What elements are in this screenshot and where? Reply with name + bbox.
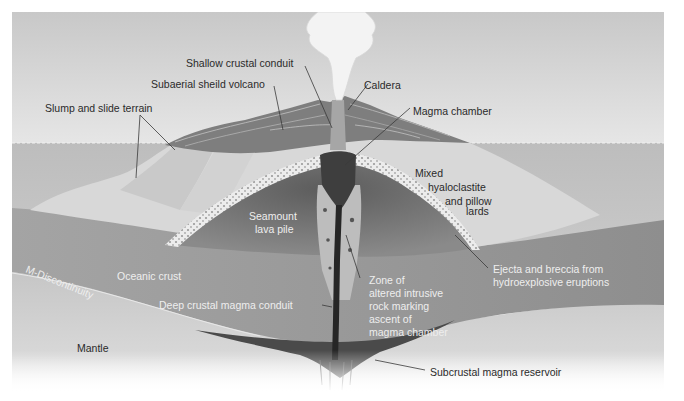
label-subcrustal-magma-reservoir: Subcrustal magma reservoir	[430, 366, 562, 378]
shallow-crustal-conduit	[330, 100, 346, 150]
label-slump-and-slide-terrain: Slump and slide terrain	[45, 102, 153, 114]
volcano-cross-section-diagram: Shallow crustal conduit Subaerial sheild…	[0, 0, 684, 401]
label-subaerial-shield-volcano: Subaerial sheild volcano	[151, 78, 265, 90]
label-oceanic-crust: Oceanic crust	[117, 270, 181, 282]
label-shallow-crustal-conduit: Shallow crustal conduit	[186, 57, 293, 69]
label-deep-crustal-magma-conduit: Deep crustal magma conduit	[159, 299, 293, 311]
label-caldera: Caldera	[364, 79, 401, 91]
label-mantle: Mantle	[77, 342, 109, 354]
label-ejecta-and-breccia: Ejecta and breccia from hydroexplosive e…	[493, 263, 609, 288]
label-seamount-lava-pile: Seamount lava pile	[249, 210, 300, 235]
label-magma-chamber: Magma chamber	[413, 105, 492, 117]
